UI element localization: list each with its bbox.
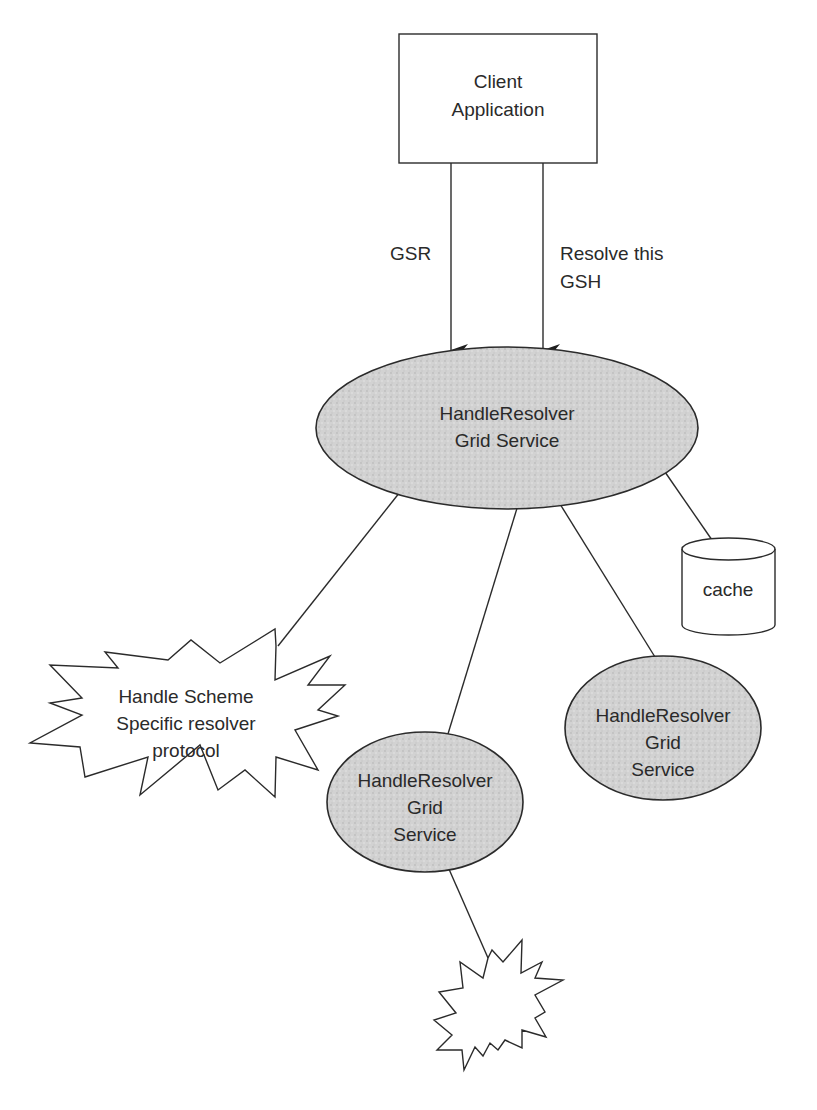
main-service-label-line1: HandleResolver: [439, 403, 575, 424]
main-service-label-line2: Grid Service: [455, 430, 560, 451]
cache-top: [682, 538, 775, 560]
sub-right-label-line1: HandleResolver: [595, 705, 731, 726]
sub-left-label-line3: Service: [393, 824, 456, 845]
connector-to-cache: [665, 472, 712, 540]
resolve-label-line2: GSH: [560, 271, 601, 292]
sub-handle-resolver-service-right: HandleResolver Grid Service: [565, 656, 761, 800]
sub-right-label-line3: Service: [631, 759, 694, 780]
scheme-label-line2: Specific resolver: [116, 713, 256, 734]
sub-handle-resolver-service-left: HandleResolver Grid Service: [327, 732, 523, 872]
main-service-ellipse: [316, 347, 698, 509]
connector-to-small-burst: [445, 860, 488, 958]
scheme-label-line1: Handle Scheme: [118, 686, 253, 707]
starburst-small-icon: [434, 940, 563, 1070]
request-arrows: GSR Resolve this GSH: [390, 163, 664, 350]
connector-to-sub-service-left: [440, 505, 518, 760]
main-handle-resolver-service: HandleResolver Grid Service: [316, 347, 698, 509]
client-label-line1: Client: [474, 71, 523, 92]
sub-left-label-line1: HandleResolver: [357, 770, 493, 791]
scheme-protocol-starburst: Handle Scheme Specific resolver protocol: [30, 629, 345, 797]
connector-to-scheme-protocol: [278, 492, 400, 646]
handle-resolver-diagram: Client Application GSR Resolve this GSH …: [0, 0, 817, 1110]
sub-left-label-line2: Grid: [407, 797, 443, 818]
gsr-label: GSR: [390, 243, 431, 264]
cache-label: cache: [703, 579, 754, 600]
scheme-label-line3: protocol: [152, 740, 220, 761]
small-starburst: [434, 940, 563, 1070]
client-application-box: Client Application: [399, 34, 597, 163]
connector-to-sub-service-right: [560, 504, 655, 657]
sub-right-label-line2: Grid: [645, 732, 681, 753]
resolve-label-line1: Resolve this: [560, 243, 664, 264]
cache-cylinder: cache: [682, 538, 775, 635]
client-label-line2: Application: [452, 99, 545, 120]
